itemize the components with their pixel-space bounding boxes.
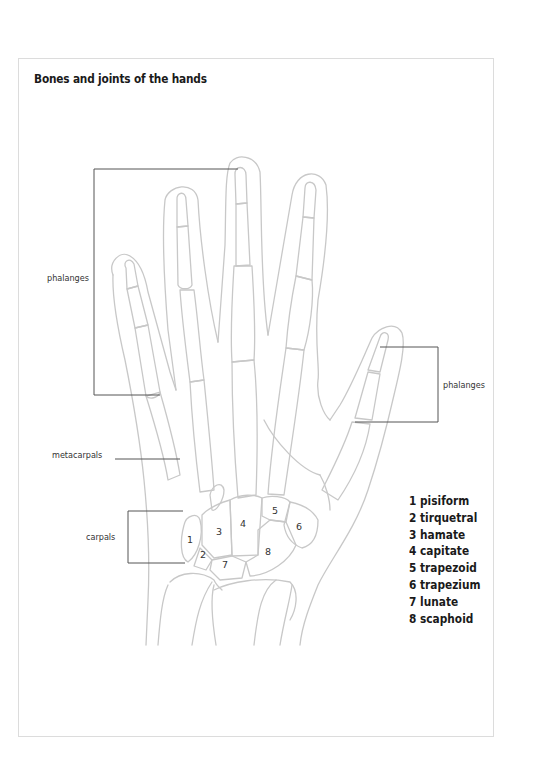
legend-item-scaphoid: 8 scaphoid [409, 611, 481, 628]
carpal-number-6: 6 [296, 521, 302, 532]
carpal-legend: 1 pisiform 2 tirquetral 3 hamate 4 capit… [409, 493, 487, 627]
carpal-number-1: 1 [187, 534, 193, 545]
legend-item-capitate: 4 capitate [409, 543, 481, 560]
legend-item-tirquetral: 2 tirquetral [409, 510, 481, 527]
label-phalanges-right: phalanges [443, 380, 485, 390]
carpal-number-5: 5 [272, 505, 278, 516]
legend-item-hamate: 3 hamate [409, 527, 481, 544]
legend-item-lunate: 7 lunate [409, 594, 481, 611]
legend-item-trapezium: 6 trapezium [409, 577, 481, 594]
carpal-number-7: 7 [222, 559, 228, 570]
carpal-number-8: 8 [265, 546, 271, 557]
legend-item-pisiform: 1 pisiform [409, 493, 481, 510]
carpal-number-4: 4 [240, 518, 246, 529]
label-metacarpals: metacarpals [52, 450, 102, 460]
label-carpals: carpals [86, 532, 115, 542]
label-phalanges-left: phalanges [47, 273, 89, 283]
carpal-number-2: 2 [200, 549, 206, 560]
legend-item-trapezoid: 5 trapezoid [409, 560, 481, 577]
carpal-number-3: 3 [216, 526, 222, 537]
